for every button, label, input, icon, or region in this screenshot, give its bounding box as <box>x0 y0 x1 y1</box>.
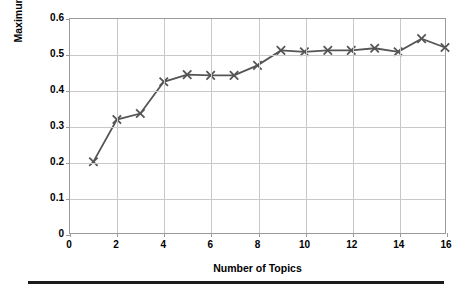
x-tick-label: 10 <box>290 240 320 250</box>
gridline-vertical <box>211 19 212 233</box>
x-tick-label: 0 <box>54 240 84 250</box>
x-tick-mark <box>117 233 118 237</box>
gridline-vertical <box>117 19 118 233</box>
x-tick-label: 12 <box>337 240 367 250</box>
y-tick-label: 0 <box>24 229 64 239</box>
x-tick-mark <box>306 233 307 237</box>
gridline-vertical <box>400 19 401 233</box>
x-tick-label: 6 <box>195 240 225 250</box>
chart-figure: Maximum C_v Value 00.10.20.30.40.50.6 02… <box>0 0 462 291</box>
y-tick-label: 0.3 <box>24 121 64 131</box>
y-tick-mark <box>66 163 70 164</box>
bottom-rule-divider <box>28 281 444 284</box>
gridline-horizontal <box>70 199 445 200</box>
y-axis-tick-labels: 00.10.20.30.40.50.6 <box>18 18 64 234</box>
x-tick-label: 16 <box>431 240 461 250</box>
x-tick-mark <box>353 233 354 237</box>
x-tick-label: 8 <box>243 240 273 250</box>
plot-area <box>69 18 446 234</box>
y-tick-label: 0.6 <box>24 13 64 23</box>
y-tick-mark <box>66 199 70 200</box>
x-tick-label: 14 <box>384 240 414 250</box>
x-tick-mark <box>211 233 212 237</box>
y-tick-label: 0.5 <box>24 49 64 59</box>
gridline-vertical <box>353 19 354 233</box>
x-tick-mark <box>164 233 165 237</box>
gridline-vertical <box>259 19 260 233</box>
gridline-vertical <box>164 19 165 233</box>
data-series-line <box>70 19 445 233</box>
x-axis-title: Number of Topics <box>69 262 446 274</box>
data-point-marker <box>89 158 97 166</box>
x-tick-mark <box>400 233 401 237</box>
y-tick-label: 0.4 <box>24 85 64 95</box>
gridline-horizontal <box>70 55 445 56</box>
x-tick-mark <box>259 233 260 237</box>
y-tick-label: 0.1 <box>24 193 64 203</box>
data-point-marker <box>253 61 261 69</box>
x-tick-label: 2 <box>101 240 131 250</box>
y-tick-mark <box>66 55 70 56</box>
x-axis-tick-labels: 0246810121416 <box>69 240 446 254</box>
data-point-marker <box>417 34 425 42</box>
gridline-horizontal <box>70 163 445 164</box>
y-tick-mark <box>66 19 70 20</box>
x-tick-label: 4 <box>148 240 178 250</box>
y-tick-mark <box>66 127 70 128</box>
x-tick-mark <box>447 233 448 237</box>
x-tick-mark <box>70 233 71 237</box>
gridline-horizontal <box>70 91 445 92</box>
gridline-horizontal <box>70 127 445 128</box>
data-point-marker <box>441 43 449 51</box>
series-polyline <box>93 39 445 162</box>
y-tick-label: 0.2 <box>24 157 64 167</box>
y-tick-mark <box>66 91 70 92</box>
gridline-vertical <box>306 19 307 233</box>
